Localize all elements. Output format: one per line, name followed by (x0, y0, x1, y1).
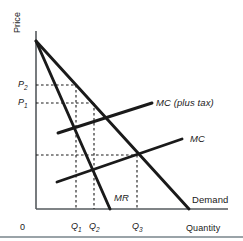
tick-label-q3-sub: 3 (139, 226, 143, 233)
axes-group (36, 31, 228, 209)
tick-label-q1-sub: 1 (78, 226, 82, 233)
tick-label-q1: Q1 (71, 222, 82, 233)
mc-curve-label: MC (190, 134, 205, 144)
tick-label-p1-sub: 1 (24, 102, 28, 109)
tick-label-q3: Q3 (132, 222, 143, 233)
tick-label-p1: P1 (18, 98, 28, 109)
origin-label: 0 (20, 223, 25, 232)
bottom-divider (0, 236, 243, 238)
tick-label-q2-sub: 2 (96, 226, 100, 233)
tick-label-p2: P2 (18, 80, 28, 91)
economics-diagram: Price Quantity 0 P2 P1 Q1 Q2 Q3 Demand M… (0, 0, 243, 241)
mr-curve-label: MR (114, 193, 129, 203)
demand-curve (36, 41, 189, 209)
demand-curve-label: Demand (192, 195, 229, 205)
mc-plus-tax-curve (58, 103, 152, 133)
mc-plus-tax-curve-label: MC (plus tax) (156, 98, 214, 108)
x-axis-title: Quantity (186, 224, 220, 233)
tick-label-p2-sub: 2 (24, 84, 28, 91)
tick-label-q2: Q2 (89, 222, 100, 233)
guide-lines-group (36, 85, 137, 209)
curves-group (36, 41, 189, 209)
mr-curve (36, 41, 110, 209)
y-axis-title: Price (13, 2, 22, 44)
